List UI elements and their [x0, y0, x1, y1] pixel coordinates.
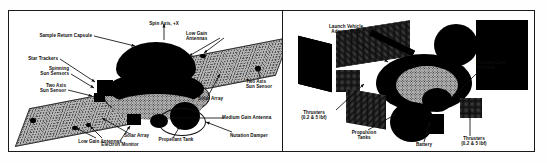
- label-solar-array-left: Solar Array: [124, 133, 149, 138]
- label-solar-array-right: Solar Array: [198, 96, 223, 101]
- label-spin-axis: Spin Axis, +X: [149, 21, 179, 26]
- label-medium-gain-antenna-right: Medium Gain Antenna: [476, 60, 505, 71]
- label-thrusters-right: Thrusters (0.2 & 5 lbf): [461, 136, 486, 147]
- label-propellant-tank: Propellant Tank: [159, 137, 194, 142]
- right-side-structure-art: [476, 20, 528, 90]
- label-sample-return-capsule: Sample Return Capsule: [39, 33, 92, 38]
- medium-gain-antenna-art: [150, 114, 168, 128]
- propulsion-tank-sphere-upper: [434, 24, 478, 66]
- lower-harness-art: [346, 88, 386, 129]
- label-propulsion-tanks: Propulsion Tanks: [352, 130, 377, 141]
- spinning-sun-sensor-art: [94, 93, 105, 102]
- medium-gain-antenna-dish-art: [422, 88, 452, 112]
- label-launch-vehicle-adapter-ring: Launch Vehicle Adapter Ring: [329, 24, 363, 35]
- label-battery: Battery: [416, 142, 432, 147]
- low-gain-antenna-nub-left-c: [86, 123, 91, 127]
- low-gain-antenna-nub-right-b: [200, 54, 206, 58]
- low-gain-antenna-nub-left-a: [30, 118, 36, 123]
- label-nutation-damper: Nutation Damper: [230, 133, 268, 138]
- panel-spacecraft-configuration: Spin Axis, +X Sample Return Capsule Star…: [8, 10, 282, 152]
- battery-box-art: [418, 114, 444, 134]
- spacecraft-annotated-figure: Spin Axis, +X Sample Return Capsule Star…: [0, 0, 547, 163]
- label-medium-gain-antenna-left: Medium Gain Antenna: [222, 115, 271, 120]
- electron-monitor-art: [127, 114, 141, 125]
- label-thrusters-left: Thrusters (0.2 & 5 lbf): [301, 110, 326, 121]
- two-axis-sun-sensor-nub-right: [255, 66, 261, 71]
- panel-divider: [282, 11, 283, 151]
- label-low-gain-antennas-top: Low Gain Antennas: [186, 31, 207, 42]
- label-two-axis-sun-sensor-right: Two Axis Sun Sensor: [246, 79, 272, 90]
- label-star-trackers: Star Trackers: [28, 56, 58, 61]
- label-two-axis-sun-sensor-left: Two Axis Sun Sensor: [40, 83, 66, 94]
- low-gain-antenna-nub-left-b: [72, 126, 78, 130]
- adapter-ring-art: [298, 36, 332, 92]
- thruster-cluster-right-art: [460, 98, 482, 118]
- label-spinning-sun-sensors: Spinning Sun Sensors: [40, 66, 69, 77]
- label-electron-monitor: Electron Monitor: [101, 142, 138, 147]
- panel-spacecraft-hardware-photo: Launch Vehicle Adapter Ring Medium Gain …: [284, 10, 535, 152]
- sample-return-capsule-art: [116, 42, 196, 86]
